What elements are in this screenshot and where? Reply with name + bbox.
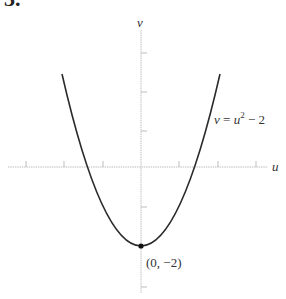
equation-label: v = u2 − 2 — [214, 110, 265, 127]
vertex-label: (0, −2) — [146, 255, 182, 270]
figure: 3. v u v = u2 − 2 — [0, 0, 286, 299]
parabola-graph: v u v = u2 − 2 (0, −2) — [0, 0, 286, 299]
v-axis-label: v — [137, 15, 143, 30]
vertex-point — [138, 243, 143, 248]
v-axis-ticks — [141, 53, 147, 287]
u-axis-label: u — [272, 159, 279, 174]
